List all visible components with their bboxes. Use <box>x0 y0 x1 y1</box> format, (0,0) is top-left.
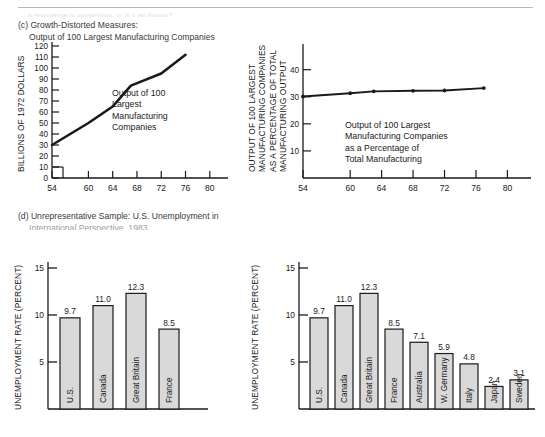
chart-4-y-tick-label: 5 <box>290 357 295 367</box>
chart-output-percentage: OUTPUT OF 100 LARGESTMANUFACTURING COMPA… <box>235 0 545 205</box>
chart-4-y-tick-label: 15 <box>286 263 296 273</box>
chart-1-y-tick-label: 0 <box>43 174 48 183</box>
chart-1-x-tick-label: 54 <box>47 183 57 193</box>
bar-category-label: Great Britain <box>365 357 374 403</box>
chart-3-plot: 510159.7U.S.11.0Canada12.3Great Britain8… <box>0 232 240 437</box>
chart-1-y-tick-label: 10 <box>39 163 49 172</box>
chart-1-y-tick-label: 60 <box>39 108 49 117</box>
bar-category-label: U.S. <box>66 387 75 403</box>
chart-2-data-point <box>443 89 447 93</box>
chart-2-x-tick-label: 60 <box>345 183 355 193</box>
chart-3-y-tick-label: 10 <box>35 310 45 320</box>
bar-value-label: 8.5 <box>388 318 400 328</box>
bar-value-label: 12.3 <box>361 282 378 292</box>
chart-output-absolute: BILLIONS OF 1972 DOLLARS Output of 100La… <box>0 0 240 205</box>
bar-category-label: Great Britain <box>132 357 141 403</box>
chart-2-data-point <box>411 89 415 93</box>
chart-unemployment-four: UNEMPLOYMENT RATE (PERCENT) 510159.7U.S.… <box>0 232 240 437</box>
chart-2-x-tick-label: 68 <box>408 183 418 193</box>
chart-1-y-tick-label: 110 <box>35 53 48 62</box>
bar-value-label: 12.3 <box>128 282 145 292</box>
chart-1-x-tick-label: 60 <box>84 183 94 193</box>
chart-2-data-point <box>482 86 486 90</box>
bar-category-label: W. Germany <box>440 357 449 403</box>
bar-category-label: Canada <box>99 374 108 403</box>
bar-category-label: Italy <box>465 387 474 403</box>
chart-2-x-tick-label: 54 <box>298 183 308 193</box>
bar-value-label: 4.8 <box>463 352 475 362</box>
chart-1-x-tick-label: 68 <box>132 183 142 193</box>
bar-category-label: France <box>390 377 399 403</box>
chart-3-y-tick-label: 15 <box>35 263 45 273</box>
chart-1-y-tick-label: 40 <box>39 130 49 139</box>
chart-2-x-tick-label: 72 <box>440 183 450 193</box>
chart-2-x-tick-label: 64 <box>377 183 387 193</box>
chart-1-y-tick-label: 20 <box>39 152 49 161</box>
chart-1-x-tick-label: 72 <box>156 183 166 193</box>
bar-value-label: 8.5 <box>163 318 175 328</box>
chart-1-y-tick-label: 120 <box>34 42 48 51</box>
chart-2-x-tick-label: 76 <box>471 183 481 193</box>
chart-2-data-point <box>348 91 352 95</box>
chart-1-x-tick-label: 80 <box>205 183 215 193</box>
chart-1-y-tick-label: 100 <box>34 64 48 73</box>
chart-4-y-tick-label: 10 <box>286 310 296 320</box>
bar-value-label: 7.1 <box>413 331 425 341</box>
chart-2-series-line <box>303 88 484 96</box>
chart-2-data-point <box>301 95 305 99</box>
bar-value-label: 9.7 <box>64 306 76 316</box>
chart-3-y-tick-label: 5 <box>39 357 44 367</box>
bar-category-label: Sweden <box>515 373 524 403</box>
caption-d-line1: (d) Unrepresentative Sample: U.S. Unempl… <box>18 211 219 223</box>
bar-value-label: 11.0 <box>95 294 111 304</box>
chart-1-plot: 0102030405060708090100110120546064687276… <box>0 0 240 205</box>
chart-2-data-point <box>372 89 376 93</box>
chart-2-y-tick-label: 20 <box>290 120 300 129</box>
chart-2-y-tick-label: 40 <box>290 66 300 75</box>
chart-2-x-tick-label: 80 <box>503 183 513 193</box>
chart-1-y-tick-label: 90 <box>39 75 49 84</box>
chart-1-y-tick-label: 30 <box>39 141 49 150</box>
chart-1-x-tick-label: 76 <box>181 183 191 193</box>
chart-1-y-tick-label: 80 <box>39 86 49 95</box>
figure-page: a resurgence in competition, or is it an… <box>0 0 545 437</box>
bar-category-label: Japan <box>490 380 499 403</box>
chart-1-x-tick-label: 64 <box>108 183 118 193</box>
bar-value-label: 11.0 <box>336 294 352 304</box>
bar-category-label: Australia <box>415 371 424 403</box>
chart-1-y-tick-label: 70 <box>39 97 49 106</box>
bar-value-label: 9.7 <box>313 306 325 316</box>
chart-2-plot: 1020304054606468727680 <box>235 0 545 205</box>
bar-value-label: 5.9 <box>438 342 450 352</box>
bar-category-label: Canada <box>340 374 349 403</box>
chart-1-series-line <box>52 55 186 145</box>
chart-2-y-tick-label: 10 <box>290 147 300 156</box>
bar-category-label: France <box>165 377 174 403</box>
chart-1-y-tick-label: 50 <box>39 119 49 128</box>
chart-4-plot: 510159.7U.S.11.0Canada12.3Great Britain8… <box>235 232 545 437</box>
bar-category-label: U.S. <box>315 387 324 403</box>
chart-unemployment-nine: UNEMPLOYMENT RATE (PERCENT) 510159.7U.S.… <box>235 232 545 437</box>
chart-2-y-tick-label: 30 <box>290 93 300 102</box>
